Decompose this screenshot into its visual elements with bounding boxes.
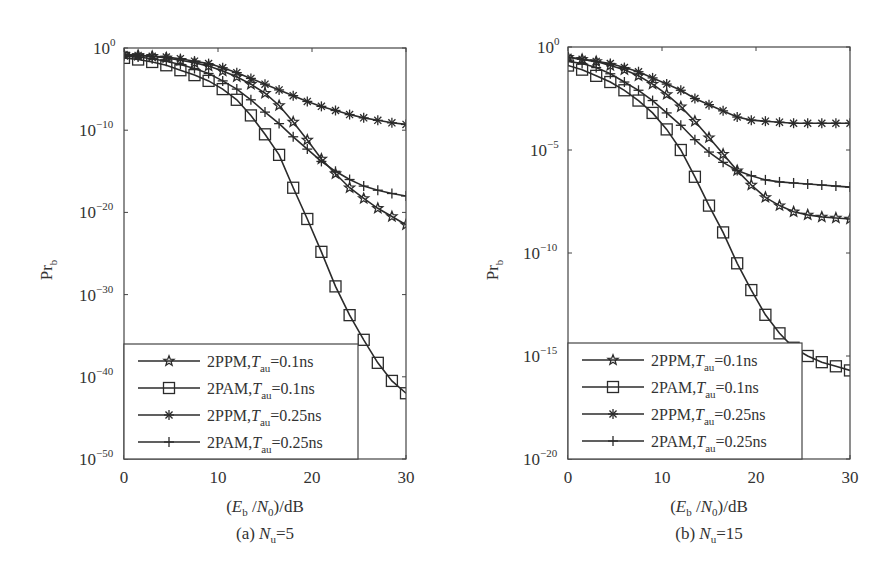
chart-panel-b: 010203010010−510−1010−1510−20Prb(Eb /N0)… (483, 35, 859, 545)
x-tick-label: 30 (842, 468, 859, 487)
x-tick-label: 30 (398, 468, 415, 487)
legend: 2PPM,Tau=0.1ns2PAM,Tau=0.1ns2PPM,Tau=0.2… (568, 343, 802, 459)
series-markers-plus (119, 51, 411, 201)
legend: 2PPM,Tau=0.1ns2PAM,Tau=0.1ns2PPM,Tau=0.2… (124, 344, 358, 459)
y-axis-label: Prb (37, 259, 59, 280)
chart-panel-a: 010203010010−1010−2010−3010−4010−50Prb(E… (37, 36, 415, 545)
y-tick-label: 10−30 (79, 283, 114, 305)
series-line (124, 56, 406, 196)
y-tick-label: 10−50 (79, 447, 114, 469)
panel-caption: (b) Nu=15 (675, 524, 743, 545)
x-tick-label: 10 (654, 468, 671, 487)
y-tick-label: 10−40 (79, 365, 114, 387)
y-tick-label: 10−10 (523, 241, 558, 263)
y-tick-label: 10−10 (79, 118, 114, 140)
plot-area (563, 52, 856, 376)
x-axis-label: (Eb /N0)/dB (226, 497, 304, 518)
series-markers-star (119, 49, 411, 229)
series-line (568, 66, 850, 371)
figure: 010203010010−1010−2010−3010−4010−50Prb(E… (0, 0, 892, 575)
y-tick-label: 100 (93, 36, 116, 58)
y-tick-label: 10−20 (523, 447, 558, 469)
y-axis-label: Prb (483, 259, 505, 280)
x-tick-label: 20 (304, 468, 321, 487)
x-tick-label: 0 (120, 468, 129, 487)
series-markers-asterisk (563, 52, 855, 128)
y-tick-label: 10−15 (523, 344, 558, 366)
x-tick-label: 0 (564, 468, 573, 487)
x-tick-label: 20 (748, 468, 765, 487)
y-tick-label: 10−5 (530, 138, 559, 160)
x-tick-label: 10 (210, 468, 227, 487)
y-tick-label: 10−20 (79, 200, 114, 222)
y-tick-label: 100 (537, 35, 560, 57)
panel-caption: (a) Nu=5 (236, 524, 294, 545)
x-axis-label: (Eb /N0)/dB (670, 497, 748, 518)
